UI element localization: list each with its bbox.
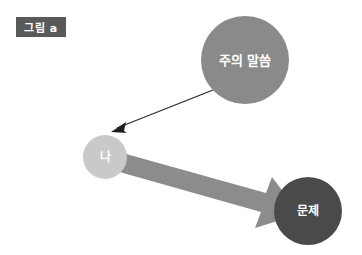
figure-badge: 그림 a: [16, 17, 66, 37]
thick-arrow-shape: [116, 152, 300, 228]
node-caution-label: 주의 말씀: [219, 53, 272, 68]
node-caution: 주의 말씀: [201, 16, 289, 104]
node-problem-label: 문제: [297, 204, 319, 218]
figure-canvas: 문제 나 주의 말씀 그림 a: [0, 0, 362, 255]
figure-badge-label: 그림 a: [24, 22, 57, 35]
figure-diagram: 문제 나 주의 말씀 그림 a: [0, 0, 362, 255]
node-self: 나: [83, 135, 127, 179]
connector-caution-to-self: [111, 90, 213, 133]
node-problem: 문제: [274, 177, 342, 245]
node-self-label: 나: [100, 149, 111, 164]
thin-arrow-line: [117, 90, 213, 128]
thin-arrow-head: [111, 122, 127, 133]
connector-self-to-problem: [116, 152, 300, 228]
